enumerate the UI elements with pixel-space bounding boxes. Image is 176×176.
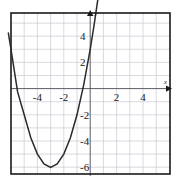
x-tick-label: -4	[33, 91, 43, 103]
x-tick-label: 2	[114, 91, 120, 103]
y-tick-label: -2	[80, 109, 89, 121]
y-axis-label: y	[94, 9, 98, 16]
x-axis-label: x	[163, 78, 167, 85]
y-tick-label: 4	[80, 30, 86, 42]
parabola-chart: -4 -2 2 4 4 2 -2 -4 -6 x y	[0, 0, 176, 176]
y-tick-label: -6	[80, 161, 90, 173]
y-tick-label: -4	[80, 135, 90, 147]
x-tick-label: 4	[140, 91, 146, 103]
y-tick-label: 2	[80, 56, 86, 68]
figure-root: · ·	[0, 0, 176, 176]
x-tick-label: -2	[59, 91, 68, 103]
